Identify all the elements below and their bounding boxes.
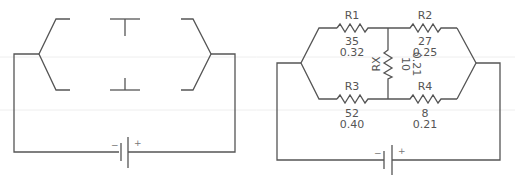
- r3-current: 0.40: [340, 118, 365, 131]
- left-branch-wire: [39, 19, 70, 90]
- left-junction-wire: [301, 28, 337, 99]
- battery-plus-label: +: [134, 138, 142, 148]
- r1-current: 0.32: [340, 46, 365, 59]
- resistor-r3-icon: [337, 95, 388, 103]
- left-return-wire: [277, 63, 384, 160]
- right-branch-wire: [181, 19, 211, 90]
- r3-label: R3: [345, 80, 360, 93]
- battery-icon: [384, 145, 392, 175]
- resistor-r4-icon: [388, 95, 457, 103]
- resistor-r2-icon: [388, 24, 457, 32]
- rx-label: RX: [370, 56, 383, 72]
- resistor-rx-icon: [384, 28, 392, 99]
- rx-current: 0.21: [410, 52, 423, 77]
- right-return-wire: [128, 54, 235, 152]
- battery-plus-label: +: [398, 146, 406, 156]
- r1-label: R1: [345, 9, 360, 22]
- circuit-canvas: − + − + R1 35 0.32 R2 27 0.25: [0, 0, 515, 184]
- right-circuit: − + R1 35 0.32 R2 27 0.25 RX 10 0.21 R3 …: [277, 9, 500, 175]
- right-junction-wire: [457, 28, 476, 99]
- r2-label: R2: [418, 9, 433, 22]
- battery-icon: [121, 137, 128, 168]
- left-circuit: − +: [14, 19, 235, 168]
- left-return-wire: [14, 54, 119, 152]
- battery-minus-label: −: [374, 148, 382, 158]
- right-return-wire: [392, 63, 500, 160]
- r4-label: R4: [418, 80, 433, 93]
- r4-current: 0.21: [413, 118, 438, 131]
- battery-minus-label: −: [111, 140, 119, 150]
- resistor-r1-icon: [337, 24, 388, 32]
